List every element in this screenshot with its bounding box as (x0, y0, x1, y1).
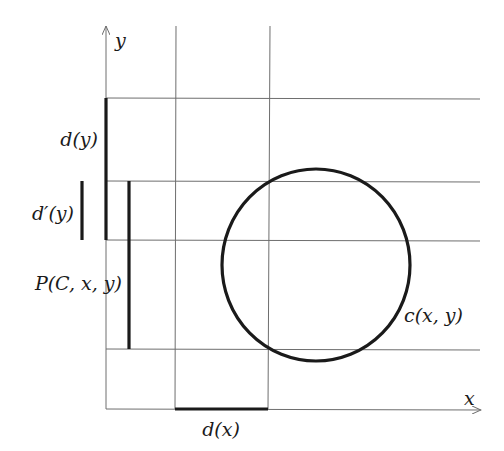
d-y-label: d(y) (60, 128, 98, 150)
d-prime-y-label: d′(y) (32, 202, 74, 224)
y-axis-label: y (114, 29, 126, 51)
x-axis (106, 409, 481, 410)
grid-horizontal-4 (106, 349, 480, 350)
c-xy-label: c(x, y) (404, 304, 463, 326)
grid-horizontal-3 (106, 240, 480, 241)
grid-vertical-right (268, 26, 270, 409)
grid-vertical-left (175, 26, 176, 409)
diagram-canvas: y x d(y) d′(y) P(C, x, y) c(x, y) d(x) (0, 0, 504, 451)
grid-horizontal-1 (106, 98, 480, 99)
p-cxy-label: P(C, x, y) (34, 272, 122, 294)
d-x-label: d(x) (202, 418, 240, 440)
x-axis-label: x (464, 387, 475, 409)
circle-c (222, 169, 410, 361)
grid-horizontal-2 (106, 181, 480, 182)
